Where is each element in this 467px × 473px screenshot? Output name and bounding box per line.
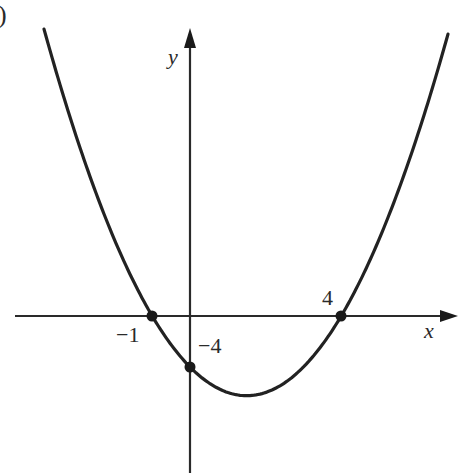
parabola-figure: ) y x −1 4 −4 [0, 0, 467, 473]
point-x-intercept-right [336, 311, 347, 322]
y-axis-label: y [168, 46, 178, 68]
graph-canvas [0, 0, 467, 473]
corner-label: ) [0, 2, 7, 28]
point-y-intercept [185, 362, 196, 373]
point-x-intercept-left [147, 311, 158, 322]
x-axis-label: x [424, 320, 434, 342]
parabola-curve [44, 29, 448, 396]
label-four: 4 [322, 287, 333, 309]
x-axis-arrow-icon [440, 310, 458, 322]
label-minus-four: −4 [198, 335, 221, 357]
y-axis-arrow-icon [184, 28, 196, 48]
label-minus-one: −1 [116, 324, 139, 346]
